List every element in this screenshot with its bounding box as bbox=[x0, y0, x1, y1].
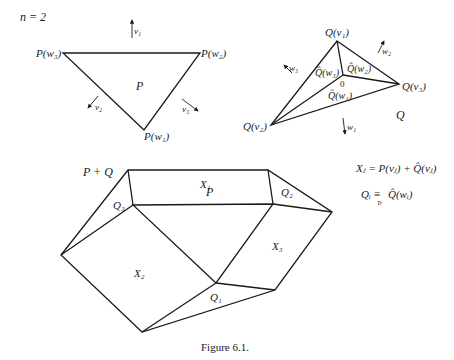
normal-label-w3: w₃ bbox=[289, 63, 298, 73]
vertex-Q-v1: Q(v₁) bbox=[325, 26, 349, 39]
figure-canvas: n = 2 P(w₃) P(w₂) P(w₁) P v₁ v₂ v₃ Q(v₁)… bbox=[0, 0, 454, 360]
formulas: Xⱼ = P(vⱼ) + Q̂(vⱼ) Qᵢ ≡ Tr Q̂(wᵢ) bbox=[355, 162, 437, 206]
face-label-Q3: Q₃ bbox=[113, 199, 125, 211]
inner-label-Qhat-w1: Q̂(w₁) bbox=[328, 89, 353, 102]
formula-Q-subscript: Tr bbox=[377, 200, 383, 206]
minkowski-sum: P + Q P X₁ X₂ X₃ Q₁ Q₂ Q₃ bbox=[61, 165, 332, 332]
normal-label-v2: v₂ bbox=[95, 102, 102, 112]
edge-Q1-right bbox=[216, 283, 275, 290]
vertex-Q-v3: Q(v₃) bbox=[402, 80, 426, 93]
inner-label-Qhat-w2: Q̂(w₂) bbox=[347, 62, 372, 75]
edge-Q3-lower bbox=[61, 205, 133, 255]
origin-label: 0 bbox=[340, 79, 345, 89]
triangle-P bbox=[63, 53, 200, 130]
inner-label-Qhat-w3: Q̂(w₃) bbox=[315, 66, 340, 79]
inner-triangle-P bbox=[133, 204, 273, 283]
vertex-P-w2: P(w₂) bbox=[200, 47, 227, 60]
formula-Q-right: Q̂(wᵢ) bbox=[388, 188, 413, 201]
polygon-P: P(w₃) P(w₂) P(w₁) P v₁ v₂ v₃ bbox=[35, 20, 227, 143]
vertex-Q-v2: Q(v₂) bbox=[243, 120, 267, 133]
edge-X1-left bbox=[128, 170, 133, 205]
normal-arrow-w1 bbox=[343, 118, 345, 134]
normal-label-v1: v₁ bbox=[134, 26, 141, 36]
spoke-v3 bbox=[343, 75, 399, 84]
normal-label-v3: v₃ bbox=[182, 104, 189, 114]
edge-X1-right bbox=[268, 170, 273, 204]
n-label: n = 2 bbox=[20, 10, 46, 24]
face-label-Q2: Q₂ bbox=[281, 186, 293, 198]
edge-Q1-left bbox=[142, 283, 216, 332]
vertex-P-w3: P(w₃) bbox=[35, 47, 62, 60]
face-label-X3: X₃ bbox=[271, 240, 283, 252]
polygon-Q: Q(v₁) Q(v₂) Q(v₃) Q̂(w₃) Q̂(w₂) Q̂(w₁) 0… bbox=[243, 26, 426, 134]
formula-Q-left: Qᵢ ≡ bbox=[361, 188, 381, 200]
vertex-P-w1: P(w₁) bbox=[143, 130, 170, 143]
edge-Q2-lower bbox=[273, 204, 332, 212]
figure-caption: Figure 6.1. bbox=[201, 341, 249, 353]
label-P-plus-Q: P + Q bbox=[82, 165, 113, 179]
label-Q: Q bbox=[396, 108, 405, 122]
face-label-X2: X₂ bbox=[133, 267, 145, 279]
face-label-Q1: Q₁ bbox=[210, 291, 222, 303]
formula-X: Xⱼ = P(vⱼ) + Q̂(vⱼ) bbox=[355, 162, 437, 175]
normal-label-w2: w₂ bbox=[382, 46, 391, 56]
normal-label-w1: w₁ bbox=[347, 122, 356, 132]
face-label-X1: X₁ bbox=[199, 178, 211, 190]
label-P: P bbox=[135, 79, 144, 93]
